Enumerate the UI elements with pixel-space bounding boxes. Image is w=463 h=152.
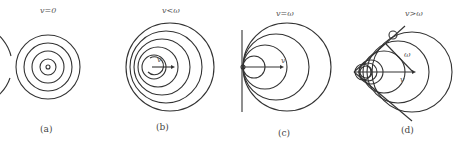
panel-b-velocity-label: v: [157, 55, 162, 64]
panel-a-caption: (a): [40, 124, 52, 134]
panel-c-wavefronts: [241, 23, 331, 112]
wavefront-diagram: v=0 v<ω v=ω v>ω v v v ω (a) (b) (c) (d): [0, 0, 463, 152]
panel-b-condition: v<ω: [162, 6, 180, 15]
panel-b-caption: (b): [156, 122, 169, 132]
panel-c-condition: v=ω: [276, 9, 294, 18]
panel-d-wavefronts: [354, 26, 452, 121]
panel-d-velocity-label: v: [400, 75, 405, 84]
panel-a-wavefronts: [0, 25, 80, 105]
panel-d-caption: (d): [401, 125, 414, 135]
panel-a-condition: v=0: [40, 6, 56, 15]
panel-c-velocity-label: v: [281, 56, 286, 65]
panel-d-condition: v>ω: [405, 9, 423, 18]
panel-d-wave-speed-label: ω: [404, 50, 411, 59]
panel-b-wavefronts: [126, 23, 214, 111]
panel-c-caption: (c): [278, 128, 290, 138]
